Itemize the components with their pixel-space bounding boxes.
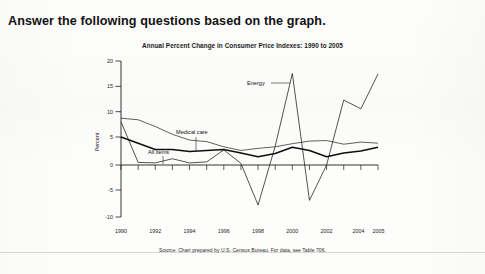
page-title: Answer the following questions based on … [8,14,326,28]
series-line-energy [121,73,378,205]
y-tick-label: -10 [105,214,113,220]
y-tick-labels: 20 15 10 5 0 -5 -10 [105,58,113,220]
x-tick-label: 1996 [218,228,230,234]
annotation-energy: Energy [247,80,290,86]
x-tick-label: 2002 [321,228,333,234]
chart-source-note: Source: Chart prepared by U.S. Census Bu… [0,247,485,253]
y-tick-marks [116,61,122,217]
y-tick-label: -5 [108,187,113,193]
y-tick-label: 20 [107,58,113,64]
series-line-medical-care [121,118,378,150]
chart-title: Annual Percent Change in Consumer Price … [0,42,485,49]
x-tick-label: 1992 [149,228,161,234]
x-tick-labels: 1990 1992 1994 1996 1998 2000 2002 2004 … [115,228,385,234]
x-tick-label: 1998 [252,228,264,234]
y-tick-label: 5 [110,134,113,140]
x-tick-label: 2004 [353,228,365,234]
x-tick-label: 1990 [115,228,127,234]
annotation-label: All items [148,149,169,155]
y-tick-label: 0 [110,162,113,168]
annotation-label: Medical care [176,129,208,135]
worksheet-page: Answer the following questions based on … [0,0,485,274]
y-tick-label: 10 [107,109,113,115]
figure-container: Annual Percent Change in Consumer Price … [0,36,485,262]
x-tick-label: 1994 [184,228,196,234]
annotation-label: Energy [247,80,265,86]
y-tick-label: 15 [107,83,113,89]
y-axis-title: Percent [94,132,100,151]
x-tick-label: 2005 [373,228,385,234]
line-chart: 20 15 10 5 0 -5 -10 Percent [0,50,485,250]
x-tick-marks [121,165,378,170]
x-tick-label: 2000 [286,228,298,234]
